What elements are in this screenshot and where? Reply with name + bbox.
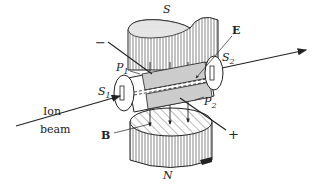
slit2-label: S2 xyxy=(222,52,235,66)
velocity-selector-diagram xyxy=(0,0,321,187)
slit2-disk xyxy=(205,56,223,90)
plate1-label: P1 xyxy=(116,62,129,76)
ion-beam-label-line1: Ion xyxy=(43,106,61,117)
ion-beam-line xyxy=(16,96,120,126)
b-field-label: B xyxy=(101,130,110,141)
e-field-label: E xyxy=(232,25,240,36)
p1-pointer xyxy=(130,71,140,74)
negative-terminal-label: − xyxy=(95,36,106,49)
ion-beam-label-line2: beam xyxy=(40,124,71,135)
south-pole-label: S xyxy=(163,4,171,15)
plate2-label: P2 xyxy=(204,96,217,110)
slit1-disk xyxy=(114,75,134,111)
slit1-label: S1 xyxy=(98,86,111,100)
positive-terminal-label: + xyxy=(228,128,239,141)
north-pole-magnet xyxy=(130,108,212,168)
north-pole-label: N xyxy=(163,170,173,181)
